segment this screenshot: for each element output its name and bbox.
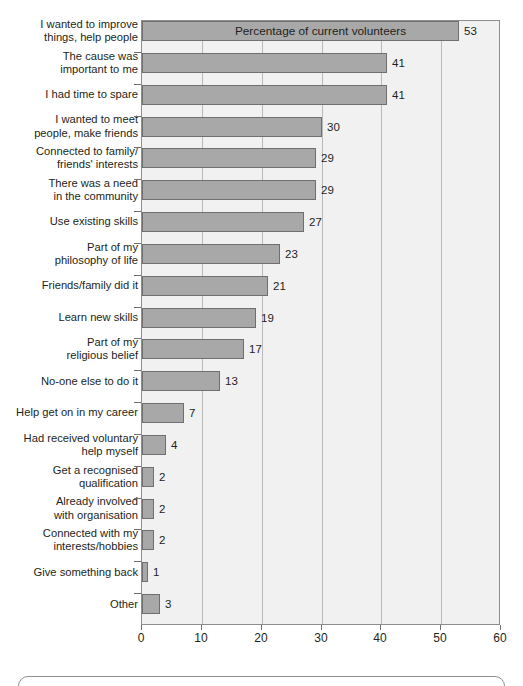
x-axis-title: Percentage of current volunteers — [141, 24, 500, 38]
bottom-note-box — [18, 676, 505, 686]
y-axis-tick — [134, 147, 141, 148]
bar-value-label: 2 — [159, 467, 165, 487]
bar — [142, 467, 154, 487]
bar — [142, 85, 387, 105]
bar-value-label: 27 — [309, 212, 322, 232]
chart-row: Part of my philosophy of life23 — [0, 243, 523, 275]
bar-value-label: 21 — [273, 276, 286, 296]
bar-value-label: 19 — [261, 308, 274, 328]
chart-row: Give something back1 — [0, 561, 523, 593]
x-axis-tick-label: 60 — [493, 631, 506, 645]
y-axis-tick — [134, 561, 141, 562]
category-label: Already involved with organisation — [6, 495, 138, 521]
category-label: No-one else to do it — [6, 375, 138, 388]
chart-row: The cause was important to me41 — [0, 52, 523, 84]
bar — [142, 435, 166, 455]
y-axis-tick — [134, 275, 141, 276]
bar — [142, 212, 304, 232]
category-label: Give something back — [6, 566, 138, 579]
chart-row: Connected with my interests/hobbies2 — [0, 529, 523, 561]
y-axis-tick — [134, 84, 141, 85]
bar — [142, 148, 316, 168]
category-label: Learn new skills — [6, 311, 138, 324]
bar — [142, 339, 244, 359]
bar-value-label: 4 — [171, 435, 177, 455]
y-axis-tick — [134, 370, 141, 371]
chart-row: Already involved with organisation2 — [0, 498, 523, 530]
bar — [142, 308, 256, 328]
x-axis: 0102030405060 — [0, 625, 523, 665]
category-label: Get a recognised qualification — [6, 464, 138, 490]
y-axis-tick — [134, 243, 141, 244]
y-axis-tick — [134, 338, 141, 339]
y-axis-tick — [134, 307, 141, 308]
chart-row: No-one else to do it13 — [0, 370, 523, 402]
chart-row: Other3 — [0, 593, 523, 625]
x-axis-tick-label: 40 — [373, 631, 386, 645]
chart-row: There was a need in the community29 — [0, 179, 523, 211]
category-label: There was a need in the community — [6, 177, 138, 203]
category-label: Other — [6, 598, 138, 611]
chart-row: Get a recognised qualification2 — [0, 466, 523, 498]
x-axis-tick — [261, 625, 262, 630]
chart-row: I had time to spare41 — [0, 84, 523, 116]
y-axis-tick — [134, 116, 141, 117]
category-label: I wanted to improve things, help people — [6, 18, 138, 44]
y-axis-tick — [134, 402, 141, 403]
bar — [142, 244, 280, 264]
bar-value-label: 3 — [165, 594, 171, 614]
y-axis-tick — [134, 434, 141, 435]
chart-row: Had received voluntary help myself4 — [0, 434, 523, 466]
bar — [142, 499, 154, 519]
bar — [142, 530, 154, 550]
bar-value-label: 2 — [159, 499, 165, 519]
x-axis-tick-label: 20 — [254, 631, 267, 645]
chart-row: I wanted to meet people, make friends30 — [0, 116, 523, 148]
bar — [142, 276, 268, 296]
x-axis-tick — [380, 625, 381, 630]
x-axis-tick — [321, 625, 322, 630]
y-axis-tick — [134, 593, 141, 594]
category-label: Use existing skills — [6, 215, 138, 228]
bar-value-label: 13 — [225, 371, 238, 391]
chart-row: Friends/family did it21 — [0, 275, 523, 307]
bar-value-label: 7 — [189, 403, 195, 423]
bar — [142, 180, 316, 200]
y-axis-tick — [134, 529, 141, 530]
x-axis-tick-label: 50 — [433, 631, 446, 645]
chart-row: Learn new skills19 — [0, 307, 523, 339]
chart-row: Help get on in my career7 — [0, 402, 523, 434]
x-axis-tick — [201, 625, 202, 630]
x-axis-tick — [500, 625, 501, 630]
bar — [142, 53, 387, 73]
bar-value-label: 29 — [321, 148, 334, 168]
x-axis-tick-label: 10 — [194, 631, 207, 645]
bar — [142, 117, 322, 137]
category-label: I wanted to meet people, make friends — [6, 113, 138, 139]
y-axis-tick — [134, 211, 141, 212]
category-label: I had time to spare — [6, 88, 138, 101]
category-label: Connected to family/ friends' interests — [6, 145, 138, 171]
y-axis-tick — [134, 498, 141, 499]
bar-value-label: 30 — [327, 117, 340, 137]
category-label: Help get on in my career — [6, 406, 138, 419]
x-axis-tick-label: 30 — [314, 631, 327, 645]
x-axis-tick — [440, 625, 441, 630]
bar — [142, 371, 220, 391]
bar-value-label: 41 — [392, 53, 405, 73]
chart-row: Use existing skills27 — [0, 211, 523, 243]
x-axis-tick — [141, 625, 142, 630]
y-axis-tick — [134, 179, 141, 180]
chart-rows: I wanted to improve things, help people5… — [0, 20, 523, 625]
category-label: Connected with my interests/hobbies — [6, 527, 138, 553]
bar-value-label: 2 — [159, 530, 165, 550]
bar-value-label: 29 — [321, 180, 334, 200]
chart-row: Connected to family/ friends' interests2… — [0, 147, 523, 179]
category-label: The cause was important to me — [6, 50, 138, 76]
category-label: Part of my philosophy of life — [6, 241, 138, 267]
bar-chart: I wanted to improve things, help people5… — [0, 0, 523, 686]
y-axis-tick — [134, 466, 141, 467]
category-label: Had received voluntary help myself — [6, 432, 138, 458]
category-label: Part of my religious belief — [6, 336, 138, 362]
bar-value-label: 1 — [153, 562, 159, 582]
